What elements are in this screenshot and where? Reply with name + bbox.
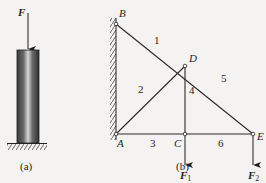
- node-label-d: D: [188, 52, 197, 64]
- member-label-6: 6: [218, 137, 224, 149]
- load-label-f1-sub: 1: [187, 174, 191, 183]
- figure-b-truss: B D A C E 1 2 3 4 5 6 F1 F2 (b): [110, 7, 264, 183]
- caption-b: (b): [176, 160, 189, 173]
- member-label-2: 2: [138, 83, 144, 95]
- load-label-f2: F2: [247, 169, 259, 183]
- node-label-b: B: [119, 7, 126, 19]
- node-label-c: C: [174, 137, 182, 149]
- node-label-e: E: [256, 130, 264, 142]
- load-label-f2-sub: 2: [255, 174, 259, 183]
- joint-e: [251, 132, 255, 136]
- caption-a: (a): [20, 160, 33, 173]
- member-label-4: 4: [189, 84, 195, 96]
- joint-c: [183, 132, 187, 136]
- load-label-f: F: [17, 6, 26, 18]
- wall-hatch: [110, 18, 116, 140]
- member-2: [116, 66, 185, 134]
- member-label-1: 1: [154, 34, 160, 46]
- joint-b: [114, 22, 118, 26]
- ground-hatch: [7, 144, 47, 150]
- member-label-5: 5: [221, 72, 227, 84]
- member-label-3: 3: [150, 137, 156, 149]
- column-body: [17, 50, 39, 143]
- joint-d: [183, 64, 187, 68]
- diagram-canvas: F (a) B D A C E 1 2 3 4 5 6: [0, 0, 266, 183]
- node-label-a: A: [116, 137, 124, 149]
- joint-a: [114, 132, 118, 136]
- figure-a-column: F (a): [7, 6, 47, 173]
